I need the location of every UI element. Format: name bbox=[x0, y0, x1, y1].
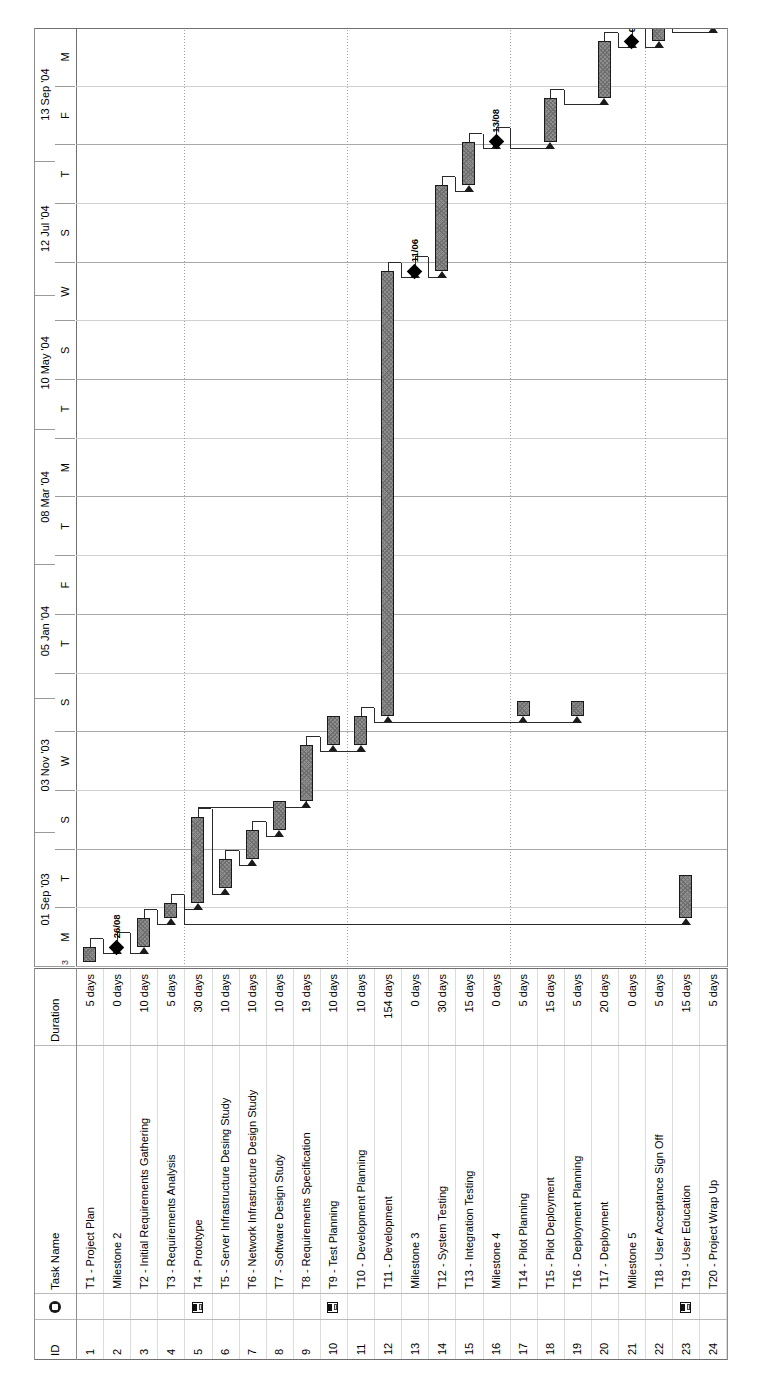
table-cell-id[interactable]: 1 bbox=[76, 1320, 103, 1360]
note-icon[interactable] bbox=[327, 1302, 338, 1313]
column-header-task-name[interactable]: Task Name bbox=[34, 1046, 76, 1294]
table-cell-duration[interactable]: 154 days bbox=[374, 968, 401, 1046]
table-cell-indicator[interactable] bbox=[374, 1294, 401, 1320]
task-bar[interactable] bbox=[164, 903, 177, 918]
table-cell-task-name[interactable]: T13 - Integration Testing bbox=[455, 1046, 482, 1294]
table-cell-id[interactable]: 7 bbox=[239, 1320, 266, 1360]
table-cell-duration[interactable]: 5 days bbox=[699, 968, 726, 1046]
table-cell-id[interactable]: 24 bbox=[699, 1320, 726, 1360]
table-cell-id[interactable]: 16 bbox=[483, 1320, 510, 1360]
table-cell-indicator[interactable] bbox=[103, 1294, 130, 1320]
table-cell-task-name[interactable]: T8 - Requirements Specification bbox=[293, 1046, 320, 1294]
table-cell-id[interactable]: 9 bbox=[293, 1320, 320, 1360]
table-cell-indicator[interactable] bbox=[428, 1294, 455, 1320]
table-cell-indicator[interactable] bbox=[699, 1294, 726, 1320]
table-cell-indicator[interactable] bbox=[320, 1294, 347, 1320]
table-cell-task-name[interactable]: Milestone 2 bbox=[103, 1046, 130, 1294]
table-cell-id[interactable]: 13 bbox=[401, 1320, 428, 1360]
table-cell-duration[interactable]: 15 days bbox=[537, 968, 564, 1046]
table-cell-duration[interactable]: 10 days bbox=[239, 968, 266, 1046]
task-bar[interactable] bbox=[598, 41, 611, 98]
task-bar[interactable] bbox=[327, 716, 340, 745]
table-cell-task-name[interactable]: T14 - Pilot Planning bbox=[510, 1046, 537, 1294]
table-cell-id[interactable]: 21 bbox=[618, 1320, 645, 1360]
table-cell-task-name[interactable]: Milestone 5 bbox=[618, 1046, 645, 1294]
table-cell-duration[interactable]: 30 days bbox=[184, 968, 211, 1046]
table-cell-id[interactable]: 11 bbox=[347, 1320, 374, 1360]
task-bar[interactable] bbox=[137, 918, 150, 947]
table-cell-task-name[interactable]: T18 - User Acceptance Sign Off bbox=[645, 1046, 672, 1294]
task-bar[interactable] bbox=[435, 185, 448, 271]
task-bar[interactable] bbox=[300, 745, 313, 800]
table-cell-indicator[interactable] bbox=[130, 1294, 157, 1320]
table-cell-indicator[interactable] bbox=[483, 1294, 510, 1320]
table-cell-task-name[interactable]: T6 - Network Infrastructure Design Study bbox=[239, 1046, 266, 1294]
table-cell-id[interactable]: 23 bbox=[672, 1320, 699, 1360]
note-icon[interactable] bbox=[680, 1302, 691, 1313]
table-cell-indicator[interactable] bbox=[76, 1294, 103, 1320]
table-cell-task-name[interactable]: T1 - Project Plan bbox=[76, 1046, 103, 1294]
table-cell-id[interactable]: 18 bbox=[537, 1320, 564, 1360]
task-bar[interactable] bbox=[652, 28, 665, 41]
table-cell-duration[interactable]: 0 days bbox=[103, 968, 130, 1046]
task-bar[interactable] bbox=[462, 142, 475, 185]
table-cell-indicator[interactable] bbox=[239, 1294, 266, 1320]
table-cell-id[interactable]: 20 bbox=[591, 1320, 618, 1360]
task-bar[interactable] bbox=[354, 716, 367, 745]
task-bar[interactable] bbox=[381, 271, 394, 716]
table-cell-id[interactable]: 19 bbox=[564, 1320, 591, 1360]
table-cell-indicator[interactable] bbox=[672, 1294, 699, 1320]
column-header-id[interactable]: ID bbox=[34, 1320, 76, 1360]
table-cell-indicator[interactable] bbox=[510, 1294, 537, 1320]
table-cell-indicator[interactable] bbox=[537, 1294, 564, 1320]
column-header-indicator[interactable] bbox=[34, 1294, 76, 1320]
table-cell-indicator[interactable] bbox=[184, 1294, 211, 1320]
task-bar[interactable] bbox=[191, 817, 204, 903]
table-cell-duration[interactable]: 10 days bbox=[347, 968, 374, 1046]
table-cell-id[interactable]: 10 bbox=[320, 1320, 347, 1360]
table-cell-duration[interactable]: 19 days bbox=[293, 968, 320, 1046]
column-header-duration[interactable]: Duration bbox=[34, 968, 76, 1046]
table-cell-task-name[interactable]: T5 - Server Infrastructure Desing Study bbox=[212, 1046, 239, 1294]
table-cell-task-name[interactable]: T20 - Project Wrap Up bbox=[699, 1046, 726, 1294]
table-cell-duration[interactable]: 10 days bbox=[266, 968, 293, 1046]
table-cell-duration[interactable]: 5 days bbox=[157, 968, 184, 1046]
table-cell-duration[interactable]: 5 days bbox=[564, 968, 591, 1046]
gantt-timeline-pane[interactable]: 01 Sep '0303 Nov '0305 Jan '0408 Mar '04… bbox=[34, 28, 728, 967]
table-cell-task-name[interactable]: T7 - Software Design Study bbox=[266, 1046, 293, 1294]
table-cell-indicator[interactable] bbox=[347, 1294, 374, 1320]
table-cell-id[interactable]: 4 bbox=[157, 1320, 184, 1360]
table-cell-duration[interactable]: 10 days bbox=[130, 968, 157, 1046]
task-bar[interactable] bbox=[219, 859, 232, 888]
task-bar[interactable] bbox=[246, 830, 259, 859]
table-cell-id[interactable]: 14 bbox=[428, 1320, 455, 1360]
note-icon[interactable] bbox=[192, 1302, 203, 1313]
table-cell-duration[interactable]: 20 days bbox=[591, 968, 618, 1046]
table-cell-indicator[interactable] bbox=[618, 1294, 645, 1320]
task-bar[interactable] bbox=[83, 947, 96, 962]
table-cell-task-name[interactable]: T19 - User Education bbox=[672, 1046, 699, 1294]
table-cell-indicator[interactable] bbox=[645, 1294, 672, 1320]
table-cell-task-name[interactable]: T4 - Prototype bbox=[184, 1046, 211, 1294]
table-cell-indicator[interactable] bbox=[293, 1294, 320, 1320]
table-cell-id[interactable]: 12 bbox=[374, 1320, 401, 1360]
table-cell-task-name[interactable]: T11 - Development bbox=[374, 1046, 401, 1294]
table-cell-duration[interactable]: 5 days bbox=[76, 968, 103, 1046]
table-cell-task-name[interactable]: T10 - Development Planning bbox=[347, 1046, 374, 1294]
table-cell-duration[interactable]: 15 days bbox=[455, 968, 482, 1046]
table-cell-id[interactable]: 17 bbox=[510, 1320, 537, 1360]
table-cell-duration[interactable]: 10 days bbox=[320, 968, 347, 1046]
gantt-bars-area[interactable]: 26/0811/0613/0801/10 bbox=[76, 28, 728, 967]
table-cell-task-name[interactable]: T15 - Pilot Deployment bbox=[537, 1046, 564, 1294]
table-cell-indicator[interactable] bbox=[591, 1294, 618, 1320]
table-cell-task-name[interactable]: T12 - System Testing bbox=[428, 1046, 455, 1294]
table-cell-indicator[interactable] bbox=[212, 1294, 239, 1320]
task-table-pane[interactable]: ID Task Name Duration 1T1 - Project Plan… bbox=[34, 968, 728, 1360]
task-bar[interactable] bbox=[544, 98, 557, 141]
table-cell-task-name[interactable]: T3 - Requirements Analysis bbox=[157, 1046, 184, 1294]
task-bar[interactable] bbox=[517, 701, 530, 716]
table-cell-indicator[interactable] bbox=[455, 1294, 482, 1320]
table-cell-duration[interactable]: 0 days bbox=[483, 968, 510, 1046]
table-cell-id[interactable]: 22 bbox=[645, 1320, 672, 1360]
table-cell-id[interactable]: 3 bbox=[130, 1320, 157, 1360]
